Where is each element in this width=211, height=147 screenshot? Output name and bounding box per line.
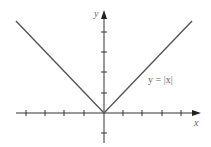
abs-value-plot: y x y = |x| <box>0 0 211 147</box>
x-axis-label: x <box>193 117 199 128</box>
y-axis-label: y <box>93 8 99 19</box>
x-axis-arrow-icon <box>192 110 201 116</box>
y-axis-arrow-icon <box>101 10 107 19</box>
curve-label: y = |x| <box>148 74 173 85</box>
